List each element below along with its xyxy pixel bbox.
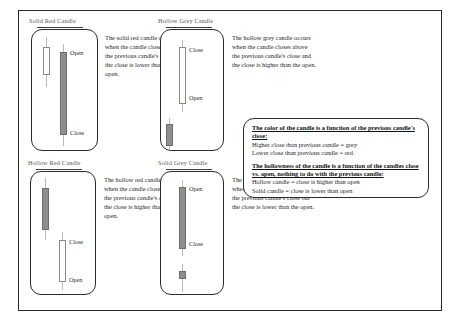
- candle-chart-hollow-grey: Close Open: [160, 29, 224, 151]
- legend-color-rule-line-2: Lower close than previous candle = red: [252, 149, 421, 157]
- main-candle-top-label: Close: [189, 46, 203, 53]
- main-candle-top-label: Open: [70, 49, 83, 56]
- candle-chart-hollow-red: Close Open: [30, 171, 96, 295]
- legend-hollowness-rule-line-1: Hollow candle = close is higher than ope…: [252, 178, 421, 186]
- legend-hollowness-rule-heading: The hollowness of the candle is a functi…: [252, 162, 421, 179]
- main-candle-body-hollow: [59, 240, 66, 282]
- panel-title-hollow-grey-candle: Hollow Grey Candle: [158, 17, 213, 24]
- panel-title-underline-hollow-red: [36, 169, 82, 171]
- legend-hollowness-rule-line-2: Solid candle = close is lower than open: [252, 187, 421, 195]
- panel-title-hollow-red-candle: Hollow Red Candle: [28, 159, 81, 166]
- main-candle-body-hollow: [179, 47, 186, 104]
- main-candle-bottom-label: Open: [189, 94, 202, 101]
- candle-rules-legend: The color of the candle is a function of…: [243, 118, 429, 198]
- legend-color-rule-heading: The color of the candle is a function of…: [252, 124, 421, 141]
- main-candle-top-label: Close: [69, 238, 83, 245]
- previous-candle-body-solid: [42, 188, 49, 230]
- panel-title-solid-red-candle: Solid Red Candle: [29, 17, 76, 24]
- main-candle-bottom-label: Close: [189, 240, 203, 247]
- panel-title-underline-hollow-grey: [166, 27, 212, 29]
- panel-title-solid-grey-candle: Solid Grey Candle: [158, 159, 207, 166]
- panel-title-underline-solid-red: [37, 27, 83, 29]
- candle-chart-solid-red: Open Close: [31, 29, 98, 151]
- panel-title-underline-solid-grey: [166, 169, 212, 171]
- panel-description-hollow-grey: The hollow grey candle occurs when the c…: [232, 33, 316, 69]
- main-candle-body-solid: [179, 187, 186, 249]
- document-canvas: Solid Red Candle Open Close The solid re…: [0, 0, 459, 329]
- previous-candle-body-solid: [179, 271, 186, 279]
- previous-candle-body-hollow: [43, 47, 50, 75]
- candle-chart-solid-grey: Open Close: [160, 171, 224, 295]
- main-candle-bottom-label: Close: [70, 129, 84, 136]
- previous-candle-body-solid: [166, 124, 173, 146]
- main-candle-top-label: Open: [189, 185, 202, 192]
- legend-color-rule-line-1: Higher close than previous candle = grey: [252, 141, 421, 149]
- main-candle-body-solid: [60, 52, 67, 135]
- main-candle-bottom-label: Open: [69, 276, 82, 283]
